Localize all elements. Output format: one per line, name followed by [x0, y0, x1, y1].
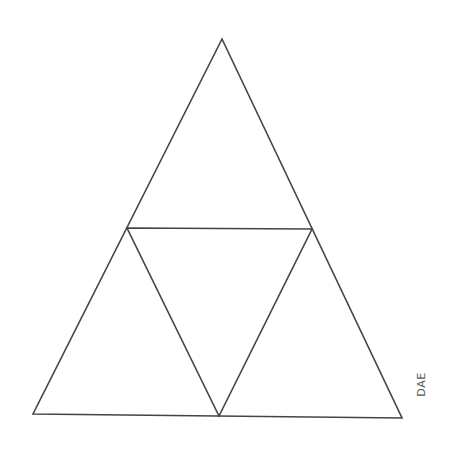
- credit-label: DAE: [415, 372, 428, 396]
- triangle-diagram: [0, 0, 450, 454]
- inner-inverted-triangle: [127, 228, 312, 416]
